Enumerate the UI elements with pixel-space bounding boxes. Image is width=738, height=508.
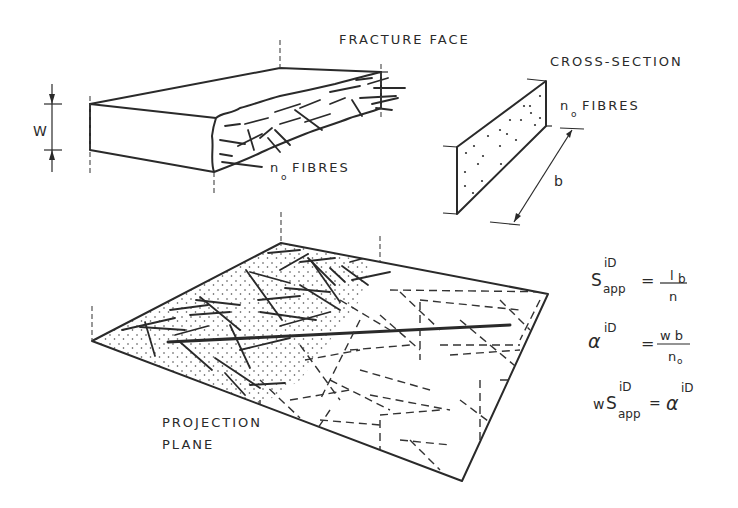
eq1-eq: = <box>641 271 654 290</box>
eq3-rhs-sup: iD <box>681 381 694 395</box>
label-plane: PLANE <box>162 437 214 452</box>
eq3-w: w <box>593 396 604 412</box>
eq3-sub: app <box>618 407 641 421</box>
eq1-num: l <box>670 268 674 283</box>
eq1-num-sub: b <box>678 272 686 286</box>
eq2-den-sub: o <box>677 356 683 366</box>
eq1-S: S <box>591 270 602 290</box>
label-w-dimension: W <box>33 123 49 139</box>
specimen-block <box>44 40 405 196</box>
fracture-diagram: FRACTURE FACE CROSS-SECTION n o FIBRES n… <box>0 0 738 508</box>
fibre-dots <box>464 95 541 194</box>
label-projection: PROJECTION <box>162 415 262 430</box>
label-n0-section-sub: o <box>571 109 579 119</box>
eq2-sup: iD <box>604 321 617 335</box>
eq2-num: w b <box>660 328 683 343</box>
label-n0-block-sub: o <box>281 172 289 182</box>
eq1-sup: iD <box>604 256 617 270</box>
eq2-alpha: α <box>588 330 601 352</box>
eq1-den: n <box>669 289 677 304</box>
equation-3: w S iD app = α iD <box>593 380 694 421</box>
equation-2: α iD = w b n o <box>588 321 690 366</box>
eq3-alpha: α <box>666 392 679 414</box>
label-n0-fibres-block: FIBRES <box>292 160 350 175</box>
label-fracture-face: FRACTURE FACE <box>339 32 470 47</box>
eq3-sup: iD <box>619 380 632 394</box>
label-n0-section-n: n <box>560 98 570 113</box>
eq2-eq: = <box>641 334 654 353</box>
label-cross-section: CROSS-SECTION <box>550 54 683 69</box>
eq3-eq: = <box>649 395 661 411</box>
label-n0-block-n: n <box>270 160 280 175</box>
equation-1: S iD app = l b n <box>591 256 687 304</box>
eq3-S: S <box>606 393 617 413</box>
eq2-den: n <box>668 349 676 364</box>
label-b-dimension: b <box>554 173 565 189</box>
label-n0-fibres-section: FIBRES <box>582 98 640 113</box>
eq1-sub: app <box>603 282 626 296</box>
